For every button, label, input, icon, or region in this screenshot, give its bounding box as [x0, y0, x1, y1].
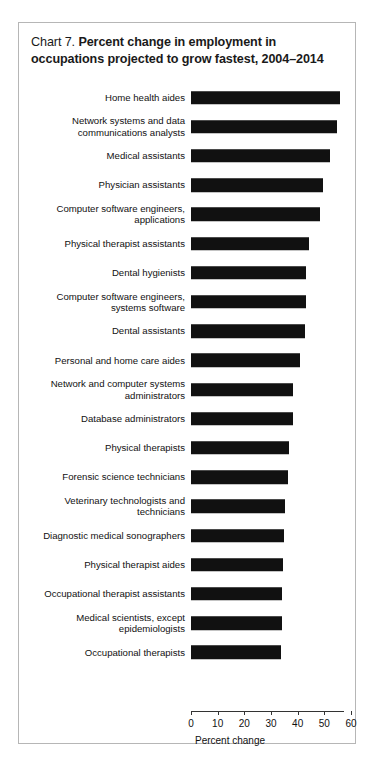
bar	[191, 529, 284, 543]
category-label: Physical therapists	[19, 442, 191, 453]
bar	[191, 91, 340, 105]
category-label: Computer software engineers, systems sof…	[19, 291, 191, 314]
category-label: Home health aides	[19, 92, 191, 103]
bar	[191, 208, 320, 222]
bar	[191, 354, 300, 368]
bar-track	[191, 638, 351, 667]
bar	[191, 616, 282, 630]
bar	[191, 295, 306, 309]
bar	[191, 149, 330, 163]
bar-track	[191, 550, 351, 579]
category-label: Dental assistants	[19, 325, 191, 336]
bar-row: Dental assistants	[19, 317, 357, 346]
category-label: Medical scientists, except epidemiologis…	[19, 612, 191, 635]
bar-row: Home health aides	[19, 83, 357, 112]
bar-track	[191, 609, 351, 638]
bar-track	[191, 287, 351, 316]
bar-track	[191, 83, 351, 112]
bar-row: Occupational therapists	[19, 638, 357, 667]
category-label: Diagnostic medical sonographers	[19, 530, 191, 541]
bar	[191, 441, 289, 455]
bar-track	[191, 433, 351, 462]
bar-row: Medical assistants	[19, 141, 357, 170]
category-label: Computer software engineers, application…	[19, 203, 191, 226]
bar-row: Personal and home care aides	[19, 346, 357, 375]
x-axis-tick	[351, 711, 352, 715]
category-label: Forensic science technicians	[19, 471, 191, 482]
x-axis-tick-label: 0	[176, 718, 206, 729]
x-axis-tick	[218, 711, 219, 715]
bar-row: Physical therapist assistants	[19, 229, 357, 258]
bar-row: Medical scientists, except epidemiologis…	[19, 609, 357, 638]
bar	[191, 412, 293, 426]
chart-card: Chart 7. Percent change in employment in…	[18, 22, 356, 744]
bar-track	[191, 375, 351, 404]
bar-row: Computer software engineers, application…	[19, 200, 357, 229]
chart-title-line-2: occupations projected to grow fastest, 2…	[31, 52, 324, 66]
bar-row: Physician assistants	[19, 171, 357, 200]
x-axis-tick-label: 40	[283, 718, 313, 729]
bar-row: Dental hygienists	[19, 258, 357, 287]
x-axis-tick	[271, 711, 272, 715]
bar	[191, 470, 288, 484]
category-label: Occupational therapist assistants	[19, 588, 191, 599]
bar-track	[191, 112, 351, 141]
bar-track	[191, 258, 351, 287]
bar	[191, 646, 281, 660]
category-label: Occupational therapists	[19, 647, 191, 658]
bar-row: Veterinary technologists and technicians	[19, 492, 357, 521]
x-axis-tick-label: 50	[309, 718, 339, 729]
category-label: Physical therapist assistants	[19, 238, 191, 249]
x-axis-line	[191, 711, 344, 712]
chart-number-label: Chart 7.	[31, 35, 75, 49]
bar-track	[191, 229, 351, 258]
x-axis-tick	[244, 711, 245, 715]
bar-track	[191, 200, 351, 229]
bar-row: Diagnostic medical sonographers	[19, 521, 357, 550]
chart-title: Chart 7. Percent change in employment in…	[31, 34, 349, 67]
bar-track	[191, 463, 351, 492]
category-label: Personal and home care aides	[19, 355, 191, 366]
bar-row: Physical therapists	[19, 433, 357, 462]
x-axis-title: Percent change	[195, 735, 265, 746]
bar-row: Forensic science technicians	[19, 463, 357, 492]
category-label: Network systems and data communications …	[19, 115, 191, 138]
bar	[191, 587, 282, 601]
x-axis-tick	[324, 711, 325, 715]
category-label: Network and computer systems administrat…	[19, 378, 191, 401]
bar	[191, 558, 283, 572]
category-label: Veterinary technologists and technicians	[19, 495, 191, 518]
plot-area: Home health aidesNetwork systems and dat…	[19, 83, 357, 723]
chart-title-line-1: Percent change in employment in	[78, 35, 276, 49]
bar-track	[191, 171, 351, 200]
bar	[191, 324, 305, 338]
x-axis-tick-label: 20	[229, 718, 259, 729]
bar	[191, 178, 323, 192]
bar-track	[191, 346, 351, 375]
x-axis-tick	[298, 711, 299, 715]
category-label: Medical assistants	[19, 150, 191, 161]
bar	[191, 500, 285, 514]
bar-row: Occupational therapist assistants	[19, 579, 357, 608]
category-label: Physician assistants	[19, 179, 191, 190]
bar	[191, 266, 306, 280]
bar-track	[191, 141, 351, 170]
category-label: Dental hygienists	[19, 267, 191, 278]
bar-track	[191, 404, 351, 433]
bar-track	[191, 492, 351, 521]
bar	[191, 120, 337, 134]
category-label: Database administrators	[19, 413, 191, 424]
bar-track	[191, 579, 351, 608]
bar	[191, 383, 293, 397]
bar-row: Physical therapist aides	[19, 550, 357, 579]
x-axis-tick	[191, 711, 192, 715]
x-axis-tick-label: 10	[203, 718, 233, 729]
category-label: Physical therapist aides	[19, 559, 191, 570]
bar-row: Network and computer systems administrat…	[19, 375, 357, 404]
bar-row: Computer software engineers, systems sof…	[19, 287, 357, 316]
bar-row: Database administrators	[19, 404, 357, 433]
x-axis-tick-label: 60	[336, 718, 366, 729]
bar-track	[191, 521, 351, 550]
bar-track	[191, 317, 351, 346]
x-axis-tick-label: 30	[256, 718, 286, 729]
